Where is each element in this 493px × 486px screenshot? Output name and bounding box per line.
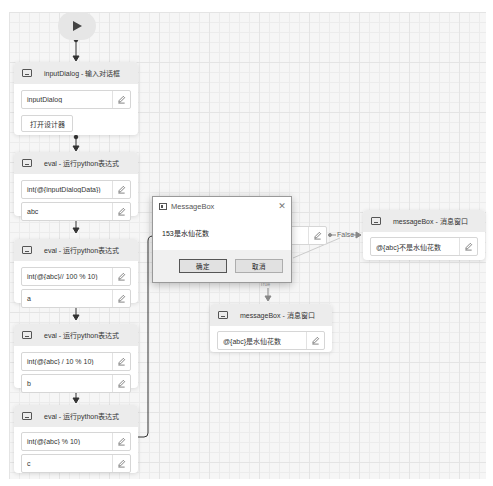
field-value: inputDialog: [22, 96, 112, 103]
input-dialog-icon: [22, 69, 32, 77]
pencil-icon: [117, 207, 126, 216]
pencil-icon: [117, 437, 126, 446]
eval-icon: [22, 246, 32, 254]
cancel-button[interactable]: 取消: [235, 259, 283, 273]
message-box-dialog[interactable]: MessageBox ✕ 153是水仙花数 确定 取消: [152, 196, 292, 283]
node-field[interactable]: @{abc}是水仙花数: [217, 331, 325, 350]
node-title: messageBox - 消息窗口: [240, 310, 332, 320]
message-box-false-node[interactable]: messageBox - 消息窗口 @{abc}不是水仙花数: [363, 210, 485, 260]
false-edge-label: False: [337, 231, 354, 238]
input-dialog-node[interactable]: inputDialog - 输入对话框 inputDialog 打开设计器: [14, 62, 138, 135]
field-value: b: [22, 380, 112, 387]
eval-node-3[interactable]: eval - 运行python表达式 int(@{abc} / 10 % 10)…: [14, 324, 138, 388]
open-designer-button[interactable]: 打开设计器: [21, 115, 73, 132]
app-root: False True inputDialog - 输入对话框 inputDial…: [0, 0, 493, 486]
field-value: @{abc}是水仙花数: [218, 336, 306, 346]
node-field[interactable]: inputDialog: [21, 90, 131, 109]
close-button[interactable]: ✕: [273, 201, 291, 211]
node-header: messageBox - 消息窗口: [363, 210, 485, 232]
node-field[interactable]: @{abc}不是水仙花数: [370, 237, 478, 256]
edit-button[interactable]: [308, 227, 326, 244]
node-title: inputDialog - 输入对话框: [44, 68, 138, 78]
field-value: c: [22, 460, 112, 467]
message-box-true-node[interactable]: messageBox - 消息窗口 @{abc}是水仙花数: [210, 304, 332, 352]
field-value: abc: [22, 208, 112, 215]
message-icon: [371, 217, 381, 225]
node-title: messageBox - 消息窗口: [393, 216, 485, 226]
dialog-title: MessageBox: [171, 202, 273, 211]
node-field[interactable]: int(@{abc} / 10 % 10): [21, 352, 131, 371]
field-value: int(@{abc} / 10 % 10): [22, 358, 112, 365]
node-title: eval - 运行python表达式: [44, 245, 138, 255]
node-field[interactable]: abc: [21, 202, 131, 221]
node-field[interactable]: int(@{inputDialogData}): [21, 180, 131, 199]
message-icon: [218, 311, 228, 319]
eval-node-2[interactable]: eval - 运行python表达式 int(@{abc}// 100 % 10…: [14, 239, 138, 303]
pencil-icon: [311, 336, 320, 345]
edit-button[interactable]: [112, 268, 130, 285]
eval-node-4[interactable]: eval - 运行python表达式 int(@{abc} % 10) c: [14, 405, 138, 473]
field-value: int(@{abc}// 100 % 10): [22, 273, 112, 280]
node-field[interactable]: a: [21, 289, 131, 308]
node-field[interactable]: b: [21, 374, 131, 393]
node-header: eval - 运行python表达式: [14, 324, 138, 346]
edit-button[interactable]: [112, 91, 130, 108]
dialog-message: 153是水仙花数: [153, 215, 291, 250]
edit-button[interactable]: [306, 332, 324, 349]
edit-button[interactable]: [112, 290, 130, 307]
edit-button[interactable]: [112, 455, 130, 472]
dialog-title-bar[interactable]: MessageBox ✕: [153, 197, 291, 215]
node-header: eval - 运行python表达式: [14, 152, 138, 174]
pencil-icon: [464, 242, 473, 251]
eval-icon: [22, 412, 32, 420]
node-header: eval - 运行python表达式: [14, 405, 138, 427]
eval-icon: [22, 159, 32, 167]
node-field[interactable]: c: [21, 454, 131, 473]
node-title: eval - 运行python表达式: [44, 158, 138, 168]
start-node[interactable]: [58, 12, 96, 40]
window-icon: [159, 203, 167, 210]
pencil-icon: [313, 231, 322, 240]
node-header: messageBox - 消息窗口: [210, 304, 332, 326]
edit-button[interactable]: [112, 375, 130, 392]
ok-button[interactable]: 确定: [179, 259, 227, 273]
node-title: eval - 运行python表达式: [44, 330, 138, 340]
field-value: a: [22, 295, 112, 302]
edit-button[interactable]: [112, 181, 130, 198]
field-value: int(@{inputDialogData}): [22, 186, 112, 193]
pencil-icon: [117, 272, 126, 281]
edit-button[interactable]: [459, 238, 477, 255]
field-value: int(@{abc} % 10): [22, 438, 112, 445]
edit-button[interactable]: [112, 433, 130, 450]
node-header: inputDialog - 输入对话框: [14, 62, 138, 84]
node-field[interactable]: int(@{abc} % 10): [21, 432, 131, 451]
node-header: eval - 运行python表达式: [14, 239, 138, 261]
edit-button[interactable]: [112, 203, 130, 220]
pencil-icon: [117, 379, 126, 388]
pencil-icon: [117, 185, 126, 194]
pencil-icon: [117, 95, 126, 104]
eval-node-1[interactable]: eval - 运行python表达式 int(@{inputDialogData…: [14, 152, 138, 216]
node-title: eval - 运行python表达式: [44, 411, 138, 421]
eval-icon: [22, 331, 32, 339]
pencil-icon: [117, 357, 126, 366]
play-icon: [71, 20, 83, 32]
field-value: @{abc}不是水仙花数: [371, 242, 459, 252]
node-field[interactable]: int(@{abc}// 100 % 10): [21, 267, 131, 286]
dialog-footer: 确定 取消: [153, 250, 291, 282]
pencil-icon: [117, 294, 126, 303]
pencil-icon: [117, 459, 126, 468]
edit-button[interactable]: [112, 353, 130, 370]
